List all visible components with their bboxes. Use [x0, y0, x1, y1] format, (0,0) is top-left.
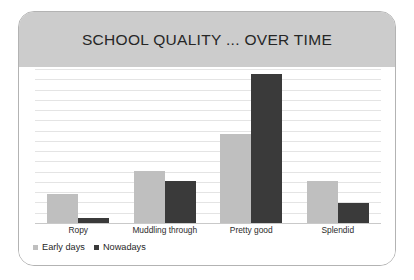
- chart-plot-wrapper: RopyMuddling throughPretty goodSplendid …: [19, 67, 395, 265]
- bar-early-days[interactable]: [47, 194, 78, 223]
- bar-nowadays[interactable]: [251, 74, 282, 223]
- chart-header-band: SCHOOL QUALITY ... OVER TIME: [19, 12, 395, 67]
- legend-entry[interactable]: Nowadays: [94, 242, 146, 252]
- bars-layer: [35, 69, 381, 223]
- legend-label: Nowadays: [103, 242, 146, 252]
- legend-entry[interactable]: Early days: [33, 242, 85, 252]
- x-axis-label: Pretty good: [208, 225, 295, 235]
- x-axis-label: Splendid: [295, 225, 382, 235]
- bar-nowadays[interactable]: [165, 181, 196, 223]
- square-swatch-icon: [94, 245, 99, 250]
- plot-area: [35, 69, 381, 223]
- x-axis-labels: RopyMuddling throughPretty goodSplendid: [35, 225, 381, 235]
- bar-early-days[interactable]: [220, 134, 251, 223]
- bar-group: [122, 69, 209, 223]
- bar-nowadays[interactable]: [338, 203, 369, 223]
- chart-card: SCHOOL QUALITY ... OVER TIME RopyMuddlin…: [18, 11, 396, 266]
- bar-group: [295, 69, 382, 223]
- bar-group: [35, 69, 122, 223]
- axis-baseline: [35, 223, 381, 224]
- chart-legend: Early daysNowadays: [33, 242, 146, 252]
- chart-title: SCHOOL QUALITY ... OVER TIME: [82, 31, 332, 49]
- legend-label: Early days: [42, 242, 85, 252]
- square-swatch-icon: [33, 245, 38, 250]
- bar-nowadays[interactable]: [78, 218, 109, 223]
- x-axis-label: Ropy: [35, 225, 122, 235]
- x-axis-label: Muddling through: [122, 225, 209, 235]
- bar-early-days[interactable]: [134, 171, 165, 223]
- bar-group: [208, 69, 295, 223]
- bar-early-days[interactable]: [307, 181, 338, 223]
